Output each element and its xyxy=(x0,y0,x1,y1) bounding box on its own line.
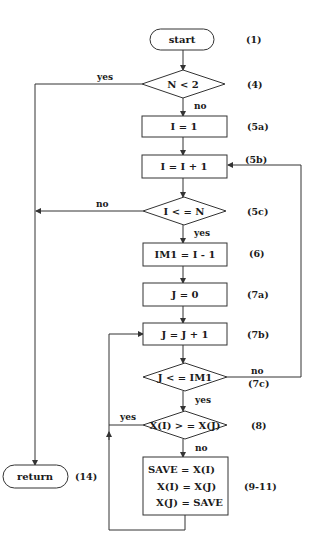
j-inc-text: J = J + 1 xyxy=(160,329,208,340)
node-compare: X(I) > = X(J) xyxy=(143,411,227,439)
i-le-n-text: I < = N xyxy=(163,206,204,217)
node-i-eq-1: I = 1 xyxy=(142,116,227,137)
im1-text: IM1 = I - 1 xyxy=(155,249,216,260)
node-start: start xyxy=(150,29,214,50)
edge-label-no: no xyxy=(194,101,207,111)
node-swap: SAVE = X(I) X(I) = X(J) X(J) = SAVE xyxy=(143,457,228,515)
label-5b: (5b) xyxy=(245,154,267,165)
label-6: (6) xyxy=(249,248,265,259)
start-text: start xyxy=(169,34,196,45)
j-eq-0-text: J = 0 xyxy=(170,289,198,300)
edge-label-yes: yes xyxy=(194,395,211,405)
edge-label-yes: yes xyxy=(119,412,136,422)
flowchart: start (1) N < 2 (4) yes no I = 1 (5a) I … xyxy=(0,0,323,557)
swap-line-1: SAVE = X(I) xyxy=(148,464,215,475)
label-9-11: (9-11) xyxy=(244,481,277,492)
node-n-lt-2: N < 2 xyxy=(142,70,225,98)
edge-j-le-im1-no xyxy=(227,165,301,377)
label-8: (8) xyxy=(251,420,267,431)
edge-n-lt-2-yes xyxy=(35,84,142,465)
label-7c: (7c) xyxy=(248,378,269,389)
node-j-le-im1: J < = IM1 xyxy=(143,363,227,391)
edge-label-no: no xyxy=(251,366,264,376)
edge-label-no: no xyxy=(96,199,109,209)
j-le-im1-text: J < = IM1 xyxy=(157,372,213,383)
node-return: return xyxy=(3,465,68,488)
swap-line-2: X(I) = X(J) xyxy=(157,481,216,492)
return-text: return xyxy=(17,471,54,482)
label-1: (1) xyxy=(246,34,262,45)
node-im1: IM1 = I - 1 xyxy=(143,243,227,266)
i-eq-1-text: I = 1 xyxy=(171,121,198,132)
n-lt-2-text: N < 2 xyxy=(167,79,198,90)
label-14: (14) xyxy=(75,471,97,482)
node-i-inc: I = I + 1 xyxy=(142,155,227,178)
label-4: (4) xyxy=(247,79,263,90)
label-7b: (7b) xyxy=(247,329,269,340)
edge-label-yes: yes xyxy=(96,72,113,82)
swap-line-3: X(J) = SAVE xyxy=(156,497,223,508)
edge-label-no: no xyxy=(195,443,208,453)
edge-label-yes: yes xyxy=(193,228,210,238)
i-inc-text: I = I + 1 xyxy=(161,161,208,172)
label-7a: (7a) xyxy=(247,289,269,300)
label-5a: (5a) xyxy=(247,121,269,132)
label-5c: (5c) xyxy=(247,206,268,217)
node-j-inc: J = J + 1 xyxy=(143,323,227,345)
node-i-le-n: I < = N xyxy=(143,197,226,225)
compare-text: X(I) > = X(J) xyxy=(149,420,220,431)
node-j-eq-0: J = 0 xyxy=(143,283,227,306)
